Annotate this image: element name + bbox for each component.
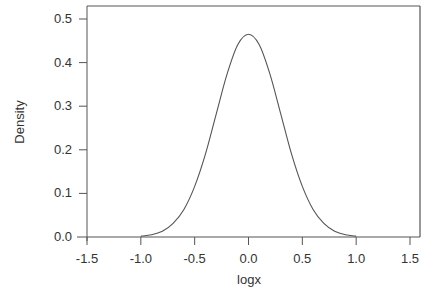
x-tick-label: 1.0 — [347, 251, 365, 266]
x-axis-title: logx — [237, 272, 261, 287]
y-tick-label: 0.0 — [54, 229, 72, 244]
x-tick-label: 0.5 — [293, 251, 311, 266]
y-axis: 0.00.10.20.30.40.5 — [54, 11, 87, 244]
x-tick-label: 0.0 — [239, 251, 257, 266]
x-tick-label: 1.5 — [401, 251, 419, 266]
y-tick-label: 0.2 — [54, 142, 72, 157]
y-axis-title: Density — [12, 100, 27, 144]
density-curve — [141, 34, 356, 236]
plot-frame — [77, 6, 420, 241]
y-tick-label: 0.5 — [54, 11, 72, 26]
y-tick-label: 0.3 — [54, 98, 72, 113]
x-tick-label: -1.0 — [130, 251, 152, 266]
y-tick-label: 0.1 — [54, 185, 72, 200]
x-axis: -1.5-1.0-0.50.00.51.01.5 — [76, 237, 419, 266]
density-chart: 0.00.10.20.30.40.5 -1.5-1.0-0.50.00.51.0… — [0, 0, 428, 293]
y-tick-label: 0.4 — [54, 55, 72, 70]
x-tick-label: -1.5 — [76, 251, 98, 266]
x-tick-label: -0.5 — [183, 251, 205, 266]
